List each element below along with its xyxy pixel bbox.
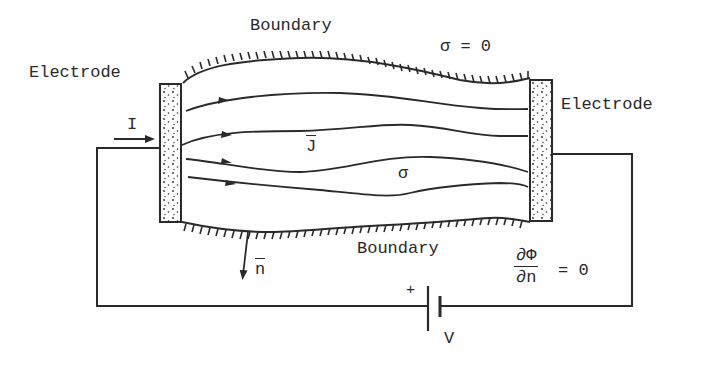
electrode-right-label: Electrode bbox=[561, 96, 653, 113]
outside-conductivity-label: σ = 0 bbox=[440, 38, 491, 55]
streamline-1 bbox=[186, 93, 528, 111]
streamline-2 bbox=[182, 125, 528, 145]
bc-numerator: ∂Φ bbox=[514, 247, 538, 267]
normal-vector-label: n bbox=[255, 258, 265, 278]
conductivity-label: σ bbox=[398, 165, 408, 182]
battery-icon bbox=[428, 286, 440, 331]
electrode-left-label: Electrode bbox=[29, 64, 121, 81]
current-label: I bbox=[127, 116, 137, 133]
bottom-boundary-hatch bbox=[184, 218, 522, 239]
boundary-condition-fraction: ∂Φ ∂n bbox=[514, 247, 538, 286]
battery-voltage-label: V bbox=[444, 330, 454, 347]
electrode-left bbox=[160, 84, 181, 222]
bc-denominator: ∂n bbox=[514, 267, 538, 286]
current-streamlines bbox=[182, 93, 528, 196]
boundary-top-label: Boundary bbox=[250, 17, 332, 34]
streamline-arrowheads bbox=[218, 97, 236, 186]
battery-plus-label: + bbox=[406, 283, 415, 298]
bottom-boundary bbox=[182, 218, 530, 239]
bc-equals-zero: = 0 bbox=[558, 262, 589, 279]
streamline-4 bbox=[188, 177, 528, 196]
streamline-3 bbox=[186, 157, 528, 172]
normal-vector-arrow bbox=[243, 232, 248, 275]
boundary-bottom-label: Boundary bbox=[357, 240, 439, 257]
diagram-drawing bbox=[0, 0, 712, 377]
diagram-canvas: Boundary Electrode Electrode σ = 0 I J σ… bbox=[0, 0, 712, 377]
electrode-right bbox=[530, 80, 552, 221]
current-density-label: J bbox=[306, 135, 316, 155]
